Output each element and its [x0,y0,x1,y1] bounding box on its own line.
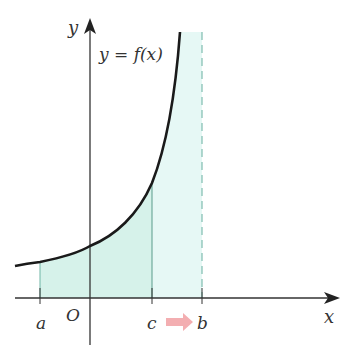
integral-diagram: y y = f(x) x O a c b [0,0,352,349]
curve-label: y = f(x) [98,44,163,64]
shaded-region-a-to-c [40,183,152,298]
y-axis-label: y [67,17,79,38]
point-b-label: b [197,313,208,333]
point-c-label: c [147,313,157,333]
approach-arrow-icon [166,313,193,331]
x-axis-label: x [324,306,334,327]
origin-label: O [66,305,80,325]
point-a-label: a [36,313,46,333]
